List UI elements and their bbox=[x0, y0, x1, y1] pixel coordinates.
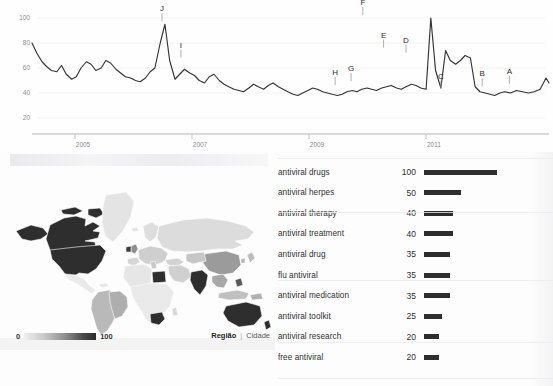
keyword-label[interactable]: antiviral drug bbox=[278, 250, 390, 259]
y-tick-label: 80 bbox=[23, 39, 31, 46]
map-region-egypt[interactable] bbox=[152, 271, 166, 283]
keyword-bar-track bbox=[424, 314, 516, 319]
keyword-bar-track bbox=[424, 190, 516, 195]
y-tick-label: 40 bbox=[23, 89, 31, 96]
x-axis-ticks: 2005 2007 2009 2011 bbox=[75, 134, 441, 148]
map-legend: 0 100 bbox=[16, 332, 113, 341]
map-panel: 0 100 Região | Cidade bbox=[0, 152, 275, 386]
y-axis-ticks: 100 80 60 40 20 bbox=[19, 14, 30, 121]
x-tick-label: 2007 bbox=[193, 141, 208, 148]
map-legend-gradient bbox=[24, 333, 96, 340]
map-legend-max-label: 100 bbox=[100, 332, 113, 341]
chart-gridlines bbox=[38, 18, 545, 118]
keyword-value: 20 bbox=[390, 352, 416, 362]
map-region-ireland[interactable] bbox=[126, 246, 131, 252]
keyword-bar-track bbox=[424, 334, 516, 339]
keyword-bar-fill bbox=[424, 231, 453, 236]
keyword-value: 100 bbox=[390, 167, 416, 177]
annotation-label-d[interactable]: D bbox=[403, 36, 409, 45]
keyword-label[interactable]: antiviral treatment bbox=[278, 229, 390, 238]
annotation-label-g[interactable]: G bbox=[348, 64, 354, 73]
annotation-label-c[interactable]: C bbox=[438, 72, 444, 81]
keyword-bar-fill bbox=[424, 252, 450, 257]
keyword-value: 35 bbox=[390, 270, 416, 280]
annotation-label-i[interactable]: I bbox=[180, 41, 182, 50]
keyword-label[interactable]: antiviral toolkit bbox=[278, 312, 390, 321]
keyword-bar-track bbox=[424, 211, 516, 216]
keyword-row[interactable]: antiviral herpes50 bbox=[278, 185, 550, 201]
x-tick-label: 2011 bbox=[427, 141, 441, 148]
x-tick-label: 2009 bbox=[310, 141, 325, 148]
keyword-bar-fill bbox=[424, 355, 439, 360]
keyword-value: 40 bbox=[390, 229, 416, 239]
keyword-row[interactable]: flu antiviral35 bbox=[278, 267, 550, 283]
annotation-label-h[interactable]: H bbox=[332, 68, 338, 77]
keyword-value: 40 bbox=[390, 208, 416, 218]
keyword-row[interactable]: antiviral drugs100 bbox=[278, 164, 550, 180]
map-scope-city-tab[interactable]: Cidade bbox=[246, 331, 270, 340]
keyword-bar-fill bbox=[424, 170, 497, 175]
annotation-label-f[interactable]: F bbox=[360, 0, 365, 7]
keyword-bar-track bbox=[424, 293, 516, 298]
annotation-label-b[interactable]: B bbox=[480, 69, 485, 78]
keyword-label[interactable]: antiviral herpes bbox=[278, 188, 390, 197]
annotation-label-e[interactable]: E bbox=[381, 31, 386, 40]
keyword-row[interactable]: antiviral research20 bbox=[278, 329, 550, 345]
keyword-label[interactable]: antiviral research bbox=[278, 332, 390, 341]
keyword-label[interactable]: flu antiviral bbox=[278, 271, 390, 280]
y-tick-label: 20 bbox=[23, 114, 31, 121]
y-tick-label: 100 bbox=[19, 14, 30, 21]
keyword-row[interactable]: free antiviral20 bbox=[278, 349, 550, 365]
trend-line-series bbox=[32, 18, 549, 96]
keyword-label[interactable]: antiviral drugs bbox=[278, 168, 390, 177]
keyword-bar-fill bbox=[424, 334, 439, 339]
keyword-value: 50 bbox=[390, 188, 416, 198]
x-tick-label: 2005 bbox=[76, 141, 91, 148]
keyword-panel: antiviral drugs100antiviral herpes50anti… bbox=[278, 152, 553, 386]
annotation-label-a[interactable]: A bbox=[507, 67, 513, 76]
annotation-label-j[interactable]: J bbox=[160, 4, 164, 13]
map-scope-toggle[interactable]: Região | Cidade bbox=[211, 331, 270, 340]
map-scope-divider: | bbox=[240, 331, 242, 340]
scan-artifact-streak bbox=[278, 378, 553, 379]
keyword-bar-track bbox=[424, 355, 516, 360]
keyword-label[interactable]: free antiviral bbox=[278, 353, 390, 362]
y-tick-label: 60 bbox=[23, 64, 31, 71]
keyword-row[interactable]: antiviral medication35 bbox=[278, 288, 550, 304]
keyword-value: 25 bbox=[390, 311, 416, 321]
keyword-row[interactable]: antiviral treatment40 bbox=[278, 226, 550, 242]
keyword-value: 35 bbox=[390, 249, 416, 259]
world-choropleth-map[interactable] bbox=[0, 166, 275, 341]
keyword-row[interactable]: antiviral drug35 bbox=[278, 246, 550, 262]
keyword-bar-fill bbox=[424, 190, 461, 195]
map-scope-region-tab[interactable]: Região bbox=[211, 331, 236, 340]
keyword-bar-fill bbox=[424, 273, 450, 278]
map-legend-min-label: 0 bbox=[16, 332, 20, 341]
keyword-bar-track bbox=[424, 273, 516, 278]
keyword-row[interactable]: antiviral therapy40 bbox=[278, 205, 550, 221]
trend-chart-panel: 100 80 60 40 20 2005 2007 2009 2011 JIHG… bbox=[0, 0, 553, 152]
keyword-label[interactable]: antiviral therapy bbox=[278, 209, 390, 218]
keyword-bar-fill bbox=[424, 314, 442, 319]
keyword-label[interactable]: antiviral medication bbox=[278, 291, 390, 300]
keyword-bar-track bbox=[424, 252, 516, 257]
keyword-value: 35 bbox=[390, 291, 416, 301]
keyword-bar-fill bbox=[424, 293, 450, 298]
keyword-bar-fill bbox=[424, 211, 453, 216]
map-region-korea[interactable] bbox=[241, 258, 245, 263]
trend-chart-svg[interactable]: 100 80 60 40 20 2005 2007 2009 2011 JIHG… bbox=[0, 0, 553, 152]
keyword-bar-track bbox=[424, 231, 516, 236]
keyword-value: 20 bbox=[390, 332, 416, 342]
keyword-row[interactable]: antiviral toolkit25 bbox=[278, 308, 550, 324]
keyword-bar-track bbox=[424, 170, 516, 175]
scan-artifact-streak bbox=[278, 158, 553, 159]
